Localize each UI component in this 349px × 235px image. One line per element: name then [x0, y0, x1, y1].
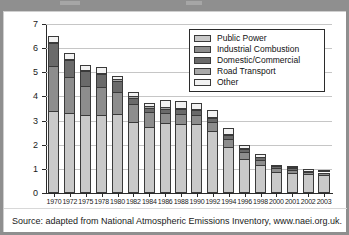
bar-segment-1982-road-transport [128, 96, 139, 97]
bar-segment-1990-other [191, 103, 202, 109]
bar-segment-1992-other [207, 110, 218, 117]
bar-segment-1998-public-power [255, 165, 266, 193]
title-ghost-mark-left [60, 1, 80, 5]
title-ghost-mark-right [186, 1, 202, 5]
bar-segment-1988-road-transport [175, 108, 186, 109]
bar-1972 [64, 24, 75, 193]
y-axis-tick [42, 145, 46, 146]
x-axis-tick [245, 193, 246, 197]
x-axis-tick [102, 193, 103, 197]
bar-1986 [160, 24, 171, 193]
bar-1984 [144, 24, 155, 193]
bar-segment-2001-other [287, 166, 298, 167]
bar-segment-2003-industrial-combustion [318, 173, 329, 175]
bar-segment-1992-domestic-commercial [207, 118, 218, 122]
y-axis-tick [42, 96, 46, 97]
bar-segment-1972-industrial-combustion [64, 77, 75, 114]
bar-segment-1978-industrial-combustion [96, 87, 107, 115]
bar-segment-1975-domestic-commercial [80, 71, 91, 85]
bar-segment-1994-industrial-combustion [223, 139, 234, 147]
bar-segment-1986-industrial-combustion [160, 113, 171, 123]
bar-segment-1980-domestic-commercial [112, 81, 123, 92]
bar-segment-1992-public-power [207, 131, 218, 193]
bar-segment-1996-domestic-commercial [239, 149, 250, 152]
x-axis-label-2002: 2002 [300, 198, 316, 206]
bar-segment-2003-domestic-commercial [318, 171, 329, 172]
bar-segment-1986-road-transport [160, 107, 171, 108]
y-axis-tick [42, 121, 46, 122]
y-axis-tick-label: 2 [18, 141, 38, 150]
legend-item-public-power[interactable]: Public Power [194, 33, 320, 44]
x-axis-tick [213, 193, 214, 197]
bar-segment-1992-road-transport [207, 117, 218, 118]
bar-segment-1986-other [160, 100, 171, 107]
bar-segment-1975-industrial-combustion [80, 86, 91, 115]
bar-segment-1975-public-power [80, 115, 91, 193]
legend-label: Industrial Combustion [217, 45, 299, 54]
y-axis-tick-label: 6 [18, 44, 38, 53]
bar-segment-1972-road-transport [64, 59, 75, 60]
bar-segment-1998-other [255, 154, 266, 156]
bar-segment-2002-other [303, 169, 314, 170]
bar-segment-1970-other [48, 36, 59, 42]
x-axis-label-1992: 1992 [205, 198, 221, 206]
legend-item-industrial-combustion[interactable]: Industrial Combustion [194, 44, 320, 55]
bar-segment-1994-public-power [223, 147, 234, 193]
bar-segment-1982-public-power [128, 122, 139, 193]
bar-1970 [48, 24, 59, 193]
bar-segment-2001-public-power [287, 173, 298, 193]
x-axis-label-2003: 2003 [316, 198, 332, 206]
x-axis-tick [165, 193, 166, 197]
legend-swatch-icon [194, 68, 211, 75]
x-axis-tick [229, 193, 230, 197]
bar-segment-1984-domestic-commercial [144, 108, 155, 113]
bar-segment-1978-road-transport [96, 73, 107, 74]
x-axis-tick [292, 193, 293, 197]
x-axis-label-1998: 1998 [253, 198, 269, 206]
x-axis-label-1975: 1975 [78, 198, 94, 206]
x-axis-label-1970: 1970 [46, 198, 62, 206]
bar-segment-1984-road-transport [144, 106, 155, 107]
bar-segment-1994-domestic-commercial [223, 135, 234, 139]
legend-label: Other [217, 78, 238, 87]
bar-segment-1984-industrial-combustion [144, 112, 155, 127]
bar-segment-1996-public-power [239, 159, 250, 193]
x-axis-label-1972: 1972 [62, 198, 78, 206]
y-axis-tick-label: 5 [18, 68, 38, 77]
x-axis-label-1984: 1984 [141, 198, 157, 206]
bar-1980 [112, 24, 123, 193]
x-axis-label-2001: 2001 [284, 198, 300, 206]
bar-segment-1990-industrial-combustion [191, 115, 202, 125]
so2-emissions-stacked-bar-chart: SO2 emissions (Mt) 01234567 197019721975… [4, 12, 347, 208]
bar-segment-1975-road-transport [80, 70, 91, 71]
bar-segment-1972-domestic-commercial [64, 60, 75, 76]
source-caption: Source: adapted from National Atmospheri… [12, 216, 342, 227]
y-axis-tick [42, 169, 46, 170]
bar-segment-1980-industrial-combustion [112, 92, 123, 114]
x-axis-label-2000: 2000 [268, 198, 284, 206]
bar-segment-2003-public-power [318, 175, 329, 193]
x-axis-label-1990: 1990 [189, 198, 205, 206]
legend-swatch-icon [194, 57, 211, 64]
x-axis-tick [197, 193, 198, 197]
bar-segment-1998-domestic-commercial [255, 157, 266, 159]
legend-item-domestic-commercial[interactable]: Domestic/Commercial [194, 55, 320, 66]
caption-divider [4, 208, 347, 209]
y-axis-tick [42, 24, 46, 25]
y-axis-tick-label: 4 [18, 92, 38, 101]
legend-item-road-transport[interactable]: Road Transport [194, 66, 320, 77]
x-axis-tick [70, 193, 71, 197]
x-axis-line [46, 193, 333, 194]
legend-item-other[interactable]: Other [194, 77, 320, 88]
chart-legend: Public PowerIndustrial CombustionDomesti… [189, 29, 325, 92]
bar-segment-1980-public-power [112, 114, 123, 193]
bar-segment-1970-public-power [48, 111, 59, 193]
bar-segment-2000-other [271, 165, 282, 166]
x-axis-tick [54, 193, 55, 197]
legend-swatch-icon [194, 79, 211, 86]
bar-segment-1990-public-power [191, 124, 202, 193]
y-axis-tick-label: 1 [18, 165, 38, 174]
legend-swatch-icon [194, 35, 211, 42]
bar-segment-1978-other [96, 67, 107, 72]
x-axis-tick [276, 193, 277, 197]
